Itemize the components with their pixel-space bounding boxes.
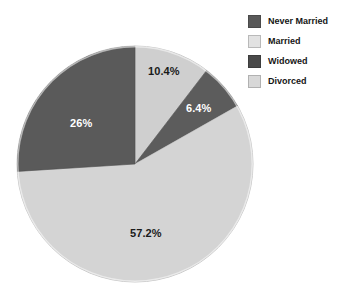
legend-swatch-divorced	[248, 75, 261, 88]
legend-item-never-married[interactable]: Never Married	[248, 11, 338, 31]
legend-item-divorced[interactable]: Divorced	[248, 71, 338, 91]
legend-item-widowed[interactable]: Widowed	[248, 51, 338, 71]
legend-swatch-never-married	[248, 15, 261, 28]
slice-value-never-married: 10.4%	[148, 66, 180, 77]
slice-value-widowed: 6.4%	[186, 103, 211, 114]
pie-graphic	[16, 45, 254, 283]
legend: Never Married Married Widowed Divorced	[248, 11, 338, 91]
legend-label-widowed: Widowed	[268, 57, 307, 66]
legend-swatch-widowed	[248, 55, 261, 68]
legend-swatch-married	[248, 35, 261, 48]
pie-slice-divorced[interactable]	[17, 46, 135, 171]
legend-label-married: Married	[268, 37, 301, 46]
legend-item-married[interactable]: Married	[248, 31, 338, 51]
pie-chart: 10.4% 6.4% 57.2% 26% Never Married Marri…	[0, 0, 339, 304]
legend-label-never-married: Never Married	[268, 17, 328, 26]
slice-value-divorced: 26%	[70, 118, 92, 129]
pie-svg	[16, 45, 254, 283]
legend-label-divorced: Divorced	[268, 77, 307, 86]
slice-value-married: 57.2%	[130, 228, 162, 239]
